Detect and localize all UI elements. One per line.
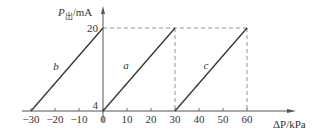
y-tick-label: 4 — [93, 99, 99, 111]
x-tick-label: −20 — [46, 113, 64, 125]
x-axis-arrow-icon — [287, 109, 296, 113]
chart: −30−20−100102030405060420 P出/mA ΔP/kPa b… — [0, 0, 318, 133]
x-tick-label: 0 — [100, 113, 106, 125]
x-tick-label: −30 — [22, 113, 40, 125]
x-tick-label: −10 — [70, 113, 88, 125]
x-axis-label: ΔP/kPa — [273, 118, 306, 130]
y-axis-arrow-icon — [101, 6, 105, 14]
x-tick-label: 40 — [194, 113, 206, 125]
series-label-a: a — [123, 59, 129, 71]
x-tick-label: 60 — [242, 113, 254, 125]
series-label-b: b — [53, 60, 59, 72]
y-tick-label: 20 — [87, 22, 99, 34]
x-tick-label: 10 — [122, 113, 134, 125]
x-tick-label: 20 — [146, 113, 158, 125]
series-line-c — [175, 28, 247, 111]
series-label-c: c — [204, 59, 209, 71]
y-axis-label: P出/mA — [57, 6, 92, 21]
series-lines — [31, 28, 247, 111]
x-tick-label: 30 — [170, 113, 182, 125]
axes: −30−20−100102030405060420 — [22, 6, 296, 125]
series-line-a — [103, 28, 175, 111]
x-tick-label: 50 — [218, 113, 230, 125]
